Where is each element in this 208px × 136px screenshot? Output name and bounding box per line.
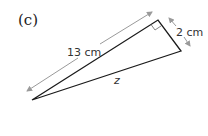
short-side-length-label: 2 cm	[176, 26, 203, 39]
triangle	[32, 20, 181, 100]
right-angle-marker	[151, 25, 161, 31]
hypotenuse-length-label: 13 cm	[67, 46, 101, 59]
unknown-side-label: z	[113, 74, 120, 87]
part-label: (c)	[18, 11, 38, 29]
dimension-arrow-13cm-lower	[27, 58, 78, 91]
triangle-diagram: (c) 13 cm 2 cm z	[0, 0, 208, 136]
dimension-arrow-2cm-upper	[169, 18, 176, 26]
